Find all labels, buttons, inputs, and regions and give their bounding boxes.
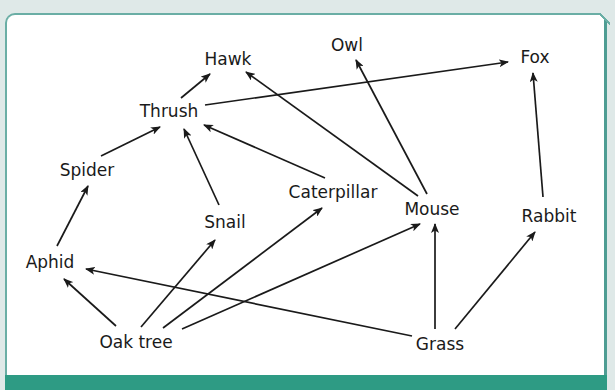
node-spider: Spider — [60, 160, 115, 180]
node-hawk: Hawk — [205, 49, 252, 69]
node-snail: Snail — [204, 212, 245, 232]
node-owl: Owl — [331, 35, 363, 55]
arrow-oak_tree-to-aphid — [64, 279, 116, 326]
arrow-aphid-to-spider — [57, 186, 88, 246]
organism-labels: HawkOwlFoxThrushSpiderCaterpillarSnailMo… — [26, 35, 577, 354]
arrow-mouse-to-owl — [356, 60, 427, 194]
arrow-oak_tree-to-snail — [141, 240, 215, 327]
arrow-mouse-to-hawk — [246, 72, 418, 196]
node-rabbit: Rabbit — [522, 206, 577, 226]
food-web-diagram: HawkOwlFoxThrushSpiderCaterpillarSnailMo… — [0, 0, 615, 390]
arrow-thrush-to-hawk — [181, 74, 210, 98]
arrow-spider-to-thrush — [101, 127, 160, 156]
arrow-snail-to-thrush — [184, 129, 219, 205]
node-grass: Grass — [416, 334, 464, 354]
node-thrush: Thrush — [139, 101, 199, 121]
node-oak_tree: Oak tree — [99, 332, 172, 352]
node-fox: Fox — [520, 47, 549, 67]
node-aphid: Aphid — [26, 252, 75, 272]
arrow-grass-to-rabbit — [455, 232, 535, 329]
node-caterpillar: Caterpillar — [289, 182, 378, 202]
arrow-grass-to-aphid — [86, 269, 412, 336]
arrow-caterpillar-to-thrush — [204, 125, 325, 178]
node-mouse: Mouse — [404, 199, 459, 219]
arrow-rabbit-to-fox — [533, 73, 543, 197]
